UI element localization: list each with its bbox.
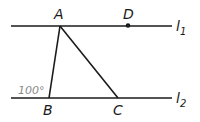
label-b: B [43,102,53,118]
label-l2: l2 [176,90,186,109]
geometry-figure: A D B C l1 l2 100° [0,0,200,122]
label-a: A [53,6,64,22]
segment-ab [49,26,60,98]
point-d-dot [126,23,131,28]
angle-label-b: 100° [18,84,45,97]
label-l1: l1 [176,18,186,37]
label-c: C [113,102,123,118]
label-d: D [123,6,134,22]
segment-ac [60,26,118,98]
